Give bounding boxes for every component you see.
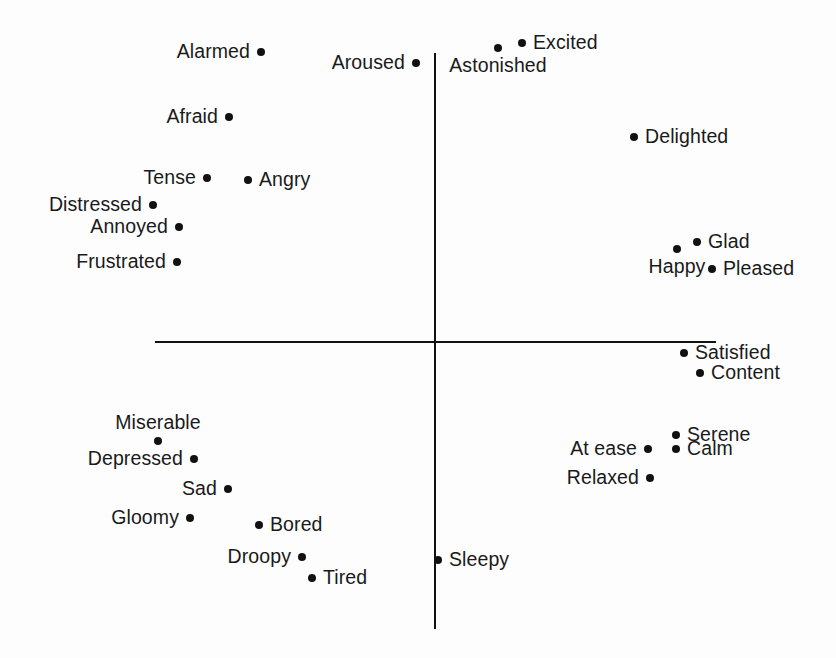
point-label-relaxed: Relaxed [567, 468, 639, 488]
point-label-gloomy: Gloomy [111, 508, 179, 528]
data-point-aroused [412, 59, 420, 67]
data-point-excited [518, 39, 526, 47]
data-point-angry [244, 176, 252, 184]
point-label-calm: Calm [687, 439, 733, 459]
point-label-at-ease: At ease [570, 439, 637, 459]
point-label-miserable: Miserable [115, 413, 200, 433]
point-label-distressed: Distressed [49, 195, 142, 215]
data-point-astonished [494, 44, 502, 52]
data-point-at-ease [644, 445, 652, 453]
point-label-sleepy: Sleepy [449, 550, 509, 570]
data-point-sleepy [434, 556, 442, 564]
data-point-afraid [225, 113, 233, 121]
data-point-gloomy [186, 514, 194, 522]
data-point-happy [673, 245, 681, 253]
data-point-bored [255, 521, 263, 529]
data-point-content [696, 369, 704, 377]
data-point-sad [224, 485, 232, 493]
data-point-distressed [149, 201, 157, 209]
data-point-delighted [630, 133, 638, 141]
data-point-droopy [298, 553, 306, 561]
data-point-serene [672, 431, 680, 439]
point-label-content: Content [711, 363, 780, 383]
point-label-droopy: Droopy [228, 547, 291, 567]
point-label-angry: Angry [259, 170, 310, 190]
point-label-bored: Bored [270, 515, 323, 535]
point-label-sad: Sad [182, 479, 217, 499]
point-label-afraid: Afraid [166, 107, 218, 127]
data-point-calm [672, 445, 680, 453]
point-label-delighted: Delighted [645, 127, 728, 147]
point-label-satisfied: Satisfied [695, 343, 771, 363]
point-label-tense: Tense [143, 168, 196, 188]
point-label-astonished: Astonished [449, 56, 546, 76]
data-point-frustrated [173, 258, 181, 266]
data-point-annoyed [175, 223, 183, 231]
data-point-tense [203, 174, 211, 182]
point-label-tired: Tired [323, 568, 367, 588]
data-point-alarmed [257, 48, 265, 56]
point-label-glad: Glad [708, 232, 750, 252]
data-point-tired [308, 574, 316, 582]
vertical-axis [434, 53, 436, 629]
point-label-aroused: Aroused [332, 53, 405, 73]
point-label-annoyed: Annoyed [90, 217, 168, 237]
point-label-happy: Happy [649, 257, 706, 277]
circumplex-affect-scatter-figure: AlarmedArousedAstonishedExcitedDelighted… [0, 0, 836, 658]
data-point-relaxed [646, 474, 654, 482]
data-point-miserable [154, 437, 162, 445]
point-label-excited: Excited [533, 33, 598, 53]
point-label-alarmed: Alarmed [177, 42, 250, 62]
data-point-satisfied [680, 349, 688, 357]
point-label-frustrated: Frustrated [76, 252, 166, 272]
data-point-depressed [190, 455, 198, 463]
data-point-glad [693, 238, 701, 246]
data-point-pleased [708, 265, 716, 273]
point-label-depressed: Depressed [88, 449, 183, 469]
point-label-pleased: Pleased [723, 259, 794, 279]
